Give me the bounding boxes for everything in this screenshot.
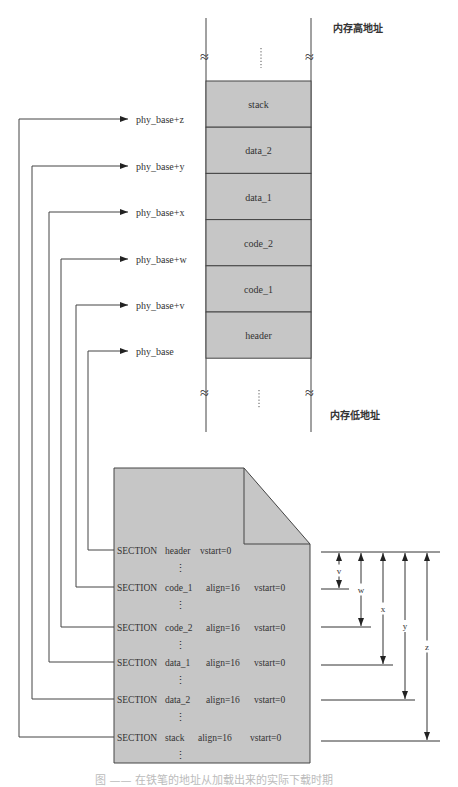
source-file-document: SECTIONheadervstart=0⋮SECTIONcode_1align… — [114, 468, 310, 763]
ellipsis-icon: ⋮ — [175, 674, 186, 686]
section-vstart: vstart=0 — [254, 658, 285, 668]
memory-block-label: code_1 — [244, 284, 273, 295]
memory-block-code-1: code_1 — [206, 266, 311, 312]
section-name: code_1 — [165, 583, 193, 593]
section-align: align=16 — [198, 733, 232, 743]
break-mark-icon: ≈ — [200, 384, 209, 401]
offset-x: x — [321, 553, 393, 665]
offset-v: v — [321, 553, 349, 589]
section-keyword: SECTION — [117, 623, 157, 633]
section-align: align=16 — [206, 583, 240, 593]
ellipsis-icon: ⋮ — [175, 639, 186, 651]
address-label: phy_base+x — [136, 207, 184, 218]
break-mark-icon: ≈ — [200, 48, 209, 65]
memory-block-label: header — [245, 330, 272, 341]
section-name: data_1 — [165, 658, 191, 668]
memory-block-label: data_1 — [245, 192, 272, 203]
section-vstart: vstart=0 — [254, 623, 285, 633]
ellipsis-icon: ⋮ — [175, 599, 186, 611]
address-label: phy_base+v — [136, 300, 184, 311]
section-name: code_2 — [165, 623, 193, 633]
section-name: stack — [165, 733, 185, 743]
ellipsis-icon: ⋮ — [175, 711, 186, 723]
section-align: align=16 — [206, 623, 240, 633]
memory-high-address-label: 内存高地址 — [333, 22, 383, 34]
break-mark-icon: ≈ — [305, 384, 314, 401]
section-keyword: SECTION — [117, 658, 157, 668]
ellipsis-icon: ⋮ — [175, 562, 186, 574]
memory-block-data-2: data_2 — [206, 127, 311, 173]
memory-block-stack: stack — [206, 81, 311, 127]
memory-block-label: stack — [248, 99, 269, 110]
ellipsis-icon: ⋮ — [175, 749, 186, 761]
memory-block-label: code_2 — [244, 238, 273, 249]
section-vstart: vstart=0 — [250, 733, 281, 743]
offset-label: w — [358, 585, 365, 595]
memory-block-label: data_2 — [245, 145, 272, 156]
section-keyword: SECTION — [117, 583, 157, 593]
offset-label: v — [337, 566, 342, 576]
section-align: align=16 — [206, 695, 240, 705]
section-keyword: SECTION — [117, 546, 157, 556]
break-mark-icon: ≈ — [305, 48, 314, 65]
memory-block-data-1: data_1 — [206, 173, 311, 219]
memory-block-header: header — [206, 312, 311, 358]
offset-w: w — [321, 553, 371, 627]
address-label: phy_base+y — [136, 161, 184, 172]
figure-caption: 图 —— 在铁笔的地址从加载出来的实际下载时期 — [95, 771, 333, 787]
section-keyword: SECTION — [117, 733, 157, 743]
offset-label: x — [381, 604, 386, 614]
address-label: phy_base+z — [136, 114, 184, 125]
section-vstart: vstart=0 — [254, 583, 285, 593]
address-label: phy_base — [136, 346, 174, 357]
memory-low-address-label: 内存低地址 — [330, 409, 380, 421]
address-label: phy_base+w — [136, 254, 187, 265]
memory-column: stackdata_2data_1code_2code_1header ≈ ≈ … — [200, 18, 383, 432]
offset-label: y — [403, 621, 408, 631]
section-name: header — [165, 546, 191, 556]
memory-block-code-2: code_2 — [206, 220, 311, 266]
offset-dimensions: vwxyz — [321, 552, 440, 741]
section-name: data_2 — [165, 695, 191, 705]
section-keyword: SECTION — [117, 695, 157, 705]
section-vstart: vstart=0 — [254, 695, 285, 705]
section-vstart: vstart=0 — [200, 546, 231, 556]
section-align: align=16 — [206, 658, 240, 668]
offset-label: z — [425, 642, 429, 652]
